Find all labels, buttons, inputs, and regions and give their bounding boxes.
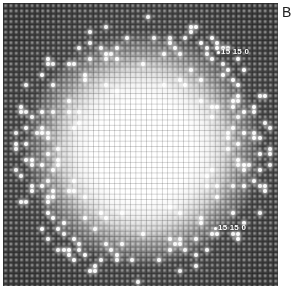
diffraction-spot [263,94,267,98]
diffraction-spot [115,46,119,50]
diffraction-spot [215,105,219,109]
diffraction-spot [109,52,113,56]
diffraction-spot [205,174,209,178]
diffraction-spot [168,248,172,252]
diffraction-spot [83,78,87,82]
diffraction-spot [210,36,214,40]
diffraction-spot [104,25,108,29]
diffraction-spot [72,179,76,183]
diffraction-spot [14,147,18,151]
diffraction-spot [104,52,108,56]
diffraction-spot [242,131,246,135]
diffraction-spot [178,211,182,215]
diffraction-spot [46,57,50,61]
diffraction-pattern-image: 15 15 0 15 15 0 [3,3,278,286]
diffraction-spot [46,131,50,135]
diffraction-spot [258,184,262,188]
diffraction-spot [62,221,66,225]
diffraction-spot [215,195,219,199]
diffraction-spot [88,269,92,273]
diffraction-spot [258,94,262,98]
diffraction-spot [226,147,230,151]
diffraction-spot [99,46,103,50]
diffraction-spot [67,110,71,114]
diffraction-spot [263,121,267,125]
diffraction-spot [30,184,34,188]
diffraction-spot [46,200,50,204]
diffraction-spot [88,41,92,45]
diffraction-spot [226,131,230,135]
diffraction-spot [40,227,44,231]
annotation-marker-bottom [214,227,217,230]
diffraction-spot [242,168,246,172]
diffraction-spot [14,168,18,172]
diffraction-spot [56,248,60,252]
diffraction-spot [258,152,262,156]
diffraction-spot [30,158,34,162]
diffraction-spot [99,258,103,262]
diffraction-spot [210,105,214,109]
diffraction-spot [194,253,198,257]
diffraction-spot [51,216,55,220]
diffraction-spot [46,237,50,241]
diffraction-spot [30,115,34,119]
diffraction-spot [231,211,235,215]
diffraction-spot [258,168,262,172]
diffraction-spot [115,253,119,257]
diffraction-spot [93,227,97,231]
diffraction-spot [152,36,156,40]
diffraction-spot [215,232,219,236]
diffraction-spot [67,253,71,257]
diffraction-spot [221,73,225,77]
diffraction-spot [189,68,193,72]
diffraction-spot [210,57,214,61]
diffraction-spot [46,152,50,156]
diffraction-spot [88,57,92,61]
diffraction-spot [162,52,166,56]
diffraction-spot [205,248,209,252]
diffraction-spot [205,52,209,56]
diffraction-spot [178,52,182,56]
diffraction-spot [168,205,172,209]
diffraction-spot [258,211,262,215]
annotation-label-bottom: 15 15 0 [218,223,246,232]
diffraction-spot [14,142,18,146]
diffraction-spot [242,184,246,188]
diffraction-spot [19,174,23,178]
diffraction-spot [268,126,272,130]
diffraction-spot [93,264,97,268]
diffraction-spot [120,211,124,215]
diffraction-spot [231,232,235,236]
diffraction-spot [72,126,76,130]
diffraction-spot [46,62,50,66]
diffraction-spot [226,68,230,72]
diffraction-spot [46,211,50,215]
diffraction-spot [231,126,235,130]
diffraction-spot [51,195,55,199]
diffraction-spot [56,227,60,231]
diffraction-spot [205,46,209,50]
diffraction-spot [83,253,87,257]
diffraction-spot [168,41,172,45]
diffraction-spot [242,110,246,114]
diffraction-spot [168,237,172,241]
diffraction-spot [83,195,87,199]
annotation-label-top: 15 15 0 [221,47,249,56]
diffraction-spot [19,110,23,114]
diffraction-spot [62,248,66,252]
panel-label: B [282,4,291,20]
diffraction-spot [242,163,246,167]
diffraction-spot [115,57,119,61]
diffraction-spot [109,248,113,252]
diffraction-spot [178,269,182,273]
diffraction-spot [115,258,119,262]
diffraction-spot [83,216,87,220]
diffraction-spot [115,89,119,93]
diffraction-spot [221,62,225,66]
diffraction-spot [210,232,214,236]
diffraction-spot [263,184,267,188]
diffraction-spot [30,163,34,167]
diffraction-spot [141,232,145,236]
diffraction-spot [104,57,108,61]
diffraction-spot [104,216,108,220]
